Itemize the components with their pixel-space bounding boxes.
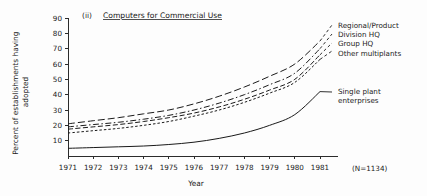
legend-label: Regional/Product bbox=[338, 21, 399, 30]
line-chart: 102030405060708090 197119721973197419751… bbox=[0, 0, 427, 196]
panel-tag: (ii) bbox=[82, 11, 92, 20]
legend-label: Division HQ bbox=[338, 30, 380, 39]
chart-title: Computers for Commercial Use bbox=[103, 11, 222, 20]
series-line-regional-product bbox=[68, 41, 320, 124]
y-tick-label: 50 bbox=[53, 75, 63, 84]
y-tick-label: 60 bbox=[53, 60, 63, 69]
x-tick-label: 1971 bbox=[59, 163, 77, 172]
legend-label: Single plant bbox=[338, 87, 381, 96]
y-tick-label: 80 bbox=[53, 29, 63, 38]
x-tick-label: 1976 bbox=[185, 163, 204, 172]
series-lines bbox=[68, 41, 320, 148]
series-line-division-hq bbox=[68, 49, 320, 127]
legend-leader-lines bbox=[320, 25, 332, 92]
axes bbox=[68, 18, 338, 156]
legend-label: Group HQ bbox=[338, 39, 374, 48]
legend-label: Other multiplants bbox=[338, 49, 401, 58]
y-tick-label: 10 bbox=[53, 136, 63, 145]
y-axis-title: Percent of establishments having adopted bbox=[11, 29, 30, 155]
x-tick-label: 1972 bbox=[84, 163, 102, 172]
chart-figure: 102030405060708090 197119721973197419751… bbox=[0, 0, 427, 196]
y-axis-ticks: 102030405060708090 bbox=[53, 14, 68, 146]
legend-leader-line bbox=[320, 34, 332, 49]
x-axis-ticks: 1971197219731974197519761977197819791980… bbox=[59, 156, 329, 172]
sample-size-label: (N=1134) bbox=[352, 164, 387, 173]
x-axis-title: Year bbox=[187, 179, 205, 188]
x-tick-label: 1973 bbox=[109, 163, 127, 172]
x-tick-label: 1980 bbox=[286, 163, 305, 172]
series-line-single-plant-enterprises bbox=[68, 92, 320, 149]
y-tick-label: 20 bbox=[53, 121, 63, 130]
x-tick-label: 1974 bbox=[134, 163, 153, 172]
series-line-group-hq bbox=[68, 55, 320, 129]
chart-legend: Regional/ProductDivision HQGroup HQOther… bbox=[338, 21, 401, 105]
x-tick-label: 1975 bbox=[160, 163, 178, 172]
y-tick-label: 40 bbox=[53, 90, 63, 99]
legend-leader-line bbox=[320, 51, 332, 59]
legend-leader-line bbox=[320, 43, 332, 55]
y-tick-label: 30 bbox=[53, 106, 63, 115]
x-tick-label: 1981 bbox=[311, 163, 329, 172]
legend-label: enterprises bbox=[338, 96, 379, 105]
x-tick-label: 1978 bbox=[235, 163, 254, 172]
y-tick-label: 70 bbox=[53, 44, 63, 53]
y-tick-label: 90 bbox=[53, 14, 63, 23]
x-tick-label: 1979 bbox=[260, 163, 279, 172]
legend-leader-line bbox=[320, 25, 332, 41]
x-tick-label: 1977 bbox=[210, 163, 228, 172]
